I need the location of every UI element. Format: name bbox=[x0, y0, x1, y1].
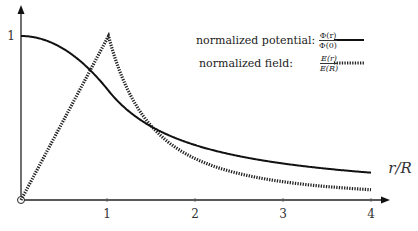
legend-potential-formula: Φ(r) Φ(0) bbox=[319, 31, 338, 50]
x-axis-label: r/R bbox=[388, 159, 412, 177]
legend-field-formula: E(r) E(R) bbox=[320, 54, 338, 73]
potential-numerator: Φ(r) bbox=[319, 31, 338, 41]
legend-potential: normalized potential: Φ(r) Φ(0) bbox=[196, 31, 337, 50]
field-denominator: E(R) bbox=[320, 64, 338, 73]
field-numerator: E(r) bbox=[320, 54, 338, 64]
x-tick-label-4: 4 bbox=[367, 207, 375, 221]
legend-field: normalized field: E(r) E(R) bbox=[199, 54, 338, 73]
x-tick-label-2: 2 bbox=[191, 207, 199, 221]
y-tick-label-1: 1 bbox=[7, 29, 15, 43]
legend-field-label: normalized field: bbox=[199, 57, 293, 70]
x-axis-arrow-icon bbox=[381, 197, 390, 204]
y-axis-arrow-icon bbox=[18, 5, 25, 14]
potential-denominator: Φ(0) bbox=[319, 41, 337, 50]
legend-potential-label: normalized potential: bbox=[196, 34, 315, 47]
x-tick-label-1: 1 bbox=[103, 207, 111, 221]
x-tick-label-3: 3 bbox=[279, 207, 287, 221]
